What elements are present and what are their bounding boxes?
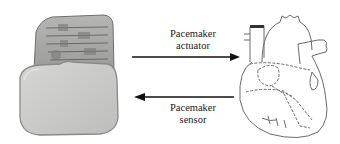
pacemaker-heart-diagram: Pacemaker actuator Pacemaker sensor xyxy=(0,0,340,144)
pacemaker-icon xyxy=(20,15,118,135)
heart-icon xyxy=(240,15,327,138)
actuator-arrow xyxy=(132,53,240,61)
sensor-arrow xyxy=(134,93,234,101)
actuator-label: Pacemaker actuator xyxy=(148,28,238,52)
actuator-label-line1: Pacemaker xyxy=(148,28,238,40)
sensor-label: Pacemaker sensor xyxy=(148,102,238,126)
actuator-label-line2: actuator xyxy=(148,40,238,52)
sensor-label-line2: sensor xyxy=(148,114,238,126)
sensor-label-line1: Pacemaker xyxy=(148,102,238,114)
